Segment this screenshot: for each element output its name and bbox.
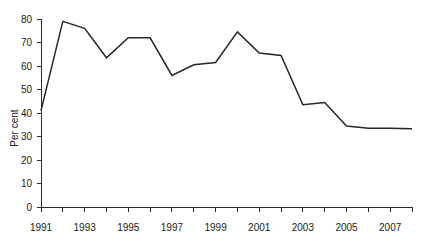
- x-tick-label: 1995: [117, 222, 140, 233]
- y-tick-label: 20: [21, 155, 33, 166]
- y-axis-tick-labels: 01020304050607080: [21, 14, 33, 213]
- x-axis-tick-labels: 199119931995199719992001200320052007: [30, 222, 402, 233]
- line-chart: 01020304050607080 1991199319951997199920…: [0, 0, 424, 247]
- x-tick-label: 1993: [74, 222, 97, 233]
- chart-canvas: 01020304050607080 1991199319951997199920…: [0, 0, 424, 247]
- x-tick-label: 2007: [379, 222, 402, 233]
- y-tick-label: 0: [26, 202, 32, 213]
- y-axis-title: Per cent: [9, 109, 20, 146]
- data-series-line: [41, 21, 412, 128]
- x-tick-label: 1999: [204, 222, 227, 233]
- y-axis-tick-marks: [37, 19, 41, 207]
- x-tick-label: 2003: [292, 222, 315, 233]
- y-tick-label: 40: [21, 108, 33, 119]
- x-tick-label: 2005: [335, 222, 358, 233]
- y-tick-label: 10: [21, 178, 33, 189]
- y-tick-label: 80: [21, 14, 33, 25]
- x-axis-tick-marks: [41, 207, 412, 212]
- y-tick-label: 30: [21, 131, 33, 142]
- x-tick-label: 1997: [161, 222, 184, 233]
- x-tick-label: 2001: [248, 222, 271, 233]
- y-tick-label: 60: [21, 61, 33, 72]
- y-tick-label: 70: [21, 37, 33, 48]
- x-tick-label: 1991: [30, 222, 53, 233]
- y-tick-label: 50: [21, 84, 33, 95]
